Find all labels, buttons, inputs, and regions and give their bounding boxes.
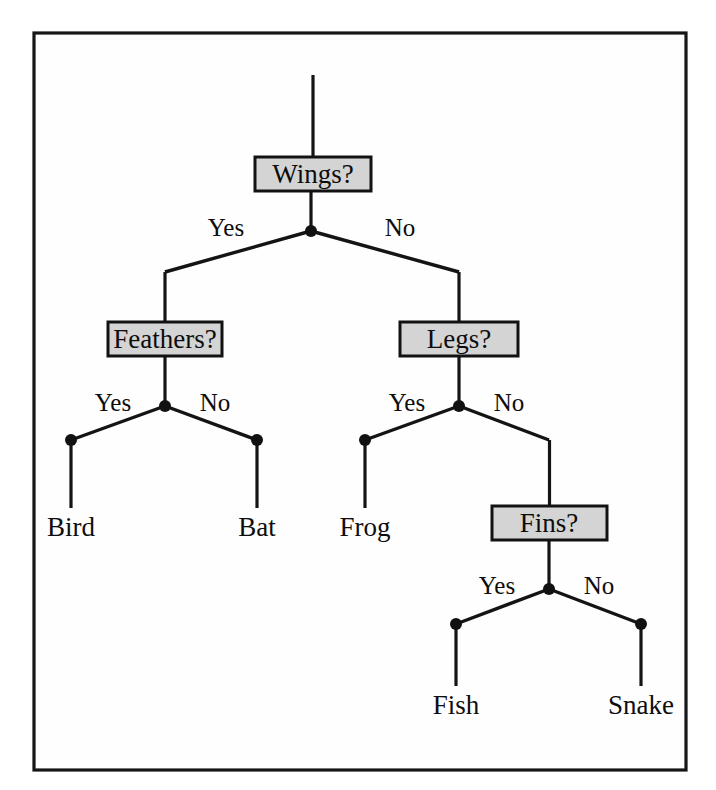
branch-label-legs-no-label: No [494,389,525,416]
junction-dot-feathers [159,400,171,412]
decision-label-feathers: Feathers? [113,324,216,354]
branch-label-legs-yes-label: Yes [389,389,425,416]
leaf-label-bird: Bird [47,512,96,542]
branch-label-fins-yes-label: Yes [479,572,515,599]
branch-label-wings-no-label: No [385,214,416,241]
leaf-label-bat: Bat [238,512,276,542]
leaf-label-snake: Snake [608,690,674,720]
decision-label-wings: Wings? [272,159,353,189]
figure-border [34,33,686,770]
branch-label-fins-no-label: No [584,572,615,599]
branch-label-wings-yes-label: Yes [208,214,244,241]
branch-label-feathers-yes-label: Yes [95,389,131,416]
decision-label-fins: Fins? [520,508,579,538]
junction-dot-wings [305,225,317,237]
leaf-dot-fish [450,618,462,630]
leaf-label-fish: Fish [433,690,480,720]
junction-dot-legs [453,400,465,412]
decision-tree-figure: Wings?Feathers?Legs?Fins? YesNoYesNoYesN… [0,0,716,790]
leaf-dot-bat [251,434,263,446]
branch-label-feathers-no-label: No [200,389,231,416]
leaf-dot-frog [359,434,371,446]
decision-tree-canvas: Wings?Feathers?Legs?Fins? YesNoYesNoYesN… [0,0,716,790]
leaf-label-frog: Frog [339,512,390,542]
junction-dot-fins [543,583,555,595]
decision-label-legs: Legs? [427,324,491,354]
leaf-dot-bird [65,434,77,446]
leaf-dot-snake [635,618,647,630]
